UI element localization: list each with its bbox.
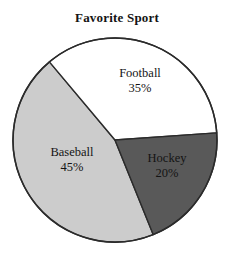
pie-label-baseball-value: 45% [50,160,93,175]
pie-label-baseball: Baseball 45% [50,145,93,175]
pie-label-baseball-name: Baseball [50,145,93,160]
pie-label-football-name: Football [119,66,161,81]
pie-label-hockey-name: Hockey [148,151,187,166]
pie-label-football: Football 35% [119,66,161,96]
pie-label-football-value: 35% [119,81,161,96]
pie-svg [0,0,234,262]
pie-label-hockey: Hockey 20% [148,151,187,181]
pie-label-hockey-value: 20% [148,166,187,181]
pie-chart-figure: Favorite Sport Football 35% Hockey 20% B… [0,0,234,262]
pie-graphic [0,0,234,262]
